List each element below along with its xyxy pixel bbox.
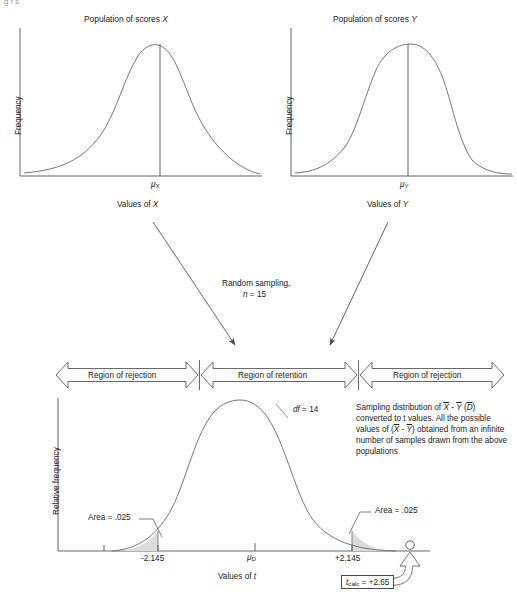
top-right-plot-title: Population of scores Y — [333, 14, 417, 25]
top-left-ylabel: Frequency — [14, 96, 25, 135]
population-x-curve — [24, 45, 260, 174]
top-right-plot-axes — [291, 28, 513, 176]
area-right-label: Area = .025 — [375, 506, 418, 517]
tcalc-value-box: tcalc = +2.65 — [341, 575, 394, 589]
random-sampling-line2: n = 15 — [243, 290, 266, 301]
top-left-plot-title: Population of scores X — [84, 14, 168, 25]
region-rejection-left-label: Region of rejection — [88, 371, 156, 382]
top-left-title-variable: X — [162, 14, 168, 24]
sampling-arrow-right — [330, 222, 388, 345]
top-left-xlabel-variable: X — [153, 200, 158, 209]
top-right-xlabel-variable: Y — [403, 200, 408, 209]
t-distribution-curve — [112, 400, 396, 551]
bottom-mean-subscript: D — [252, 555, 257, 562]
bottom-plot-ylabel: Relative frequency — [52, 447, 63, 515]
top-left-xlabel: Values of X — [117, 200, 158, 211]
sampling-distribution-annotation: Sampling distribution of X - Y (D) conve… — [356, 403, 512, 458]
bottom-mean-label: μD — [247, 553, 256, 564]
df-value: = 14 — [300, 405, 318, 414]
top-right-mean-subscript: Y — [405, 182, 409, 189]
random-sampling-line1: Random sampling, — [222, 279, 290, 290]
critical-value-right-label: +2.145 — [335, 554, 360, 565]
area-right-leader — [349, 512, 371, 534]
figure-canvas: g f s — [0, 0, 517, 596]
top-right-title-variable: Y — [411, 14, 417, 24]
bottom-plot-xlabel: Values of t — [218, 572, 256, 583]
population-y-curve — [295, 44, 512, 174]
top-right-ylabel: Frequency — [285, 96, 296, 135]
region-rejection-right-label: Region of rejection — [393, 371, 461, 382]
tcalc-value: = +2.65 — [359, 578, 389, 587]
critical-value-left-label: -2.145 — [141, 554, 164, 565]
area-left-label: Area = .025 — [88, 513, 131, 524]
sample-size-value: = 15 — [248, 290, 266, 299]
tcalc-subscript: calc — [348, 580, 359, 587]
top-right-mean-label: μY — [400, 180, 409, 191]
top-left-mean-subscript: X — [156, 182, 160, 189]
top-right-xlabel: Values of Y — [367, 200, 408, 211]
tcalc-marker-circle — [406, 541, 414, 549]
right-tail-shade — [352, 531, 392, 551]
df-leader-line — [276, 404, 288, 418]
degrees-of-freedom-label: df = 14 — [293, 405, 318, 416]
tcalc-block-arrow — [392, 552, 420, 586]
bottom-xlabel-variable: t — [254, 572, 256, 581]
region-retention-label: Region of retention — [238, 371, 307, 382]
df-variable: df — [293, 405, 300, 414]
top-left-mean-label: μX — [151, 180, 160, 191]
